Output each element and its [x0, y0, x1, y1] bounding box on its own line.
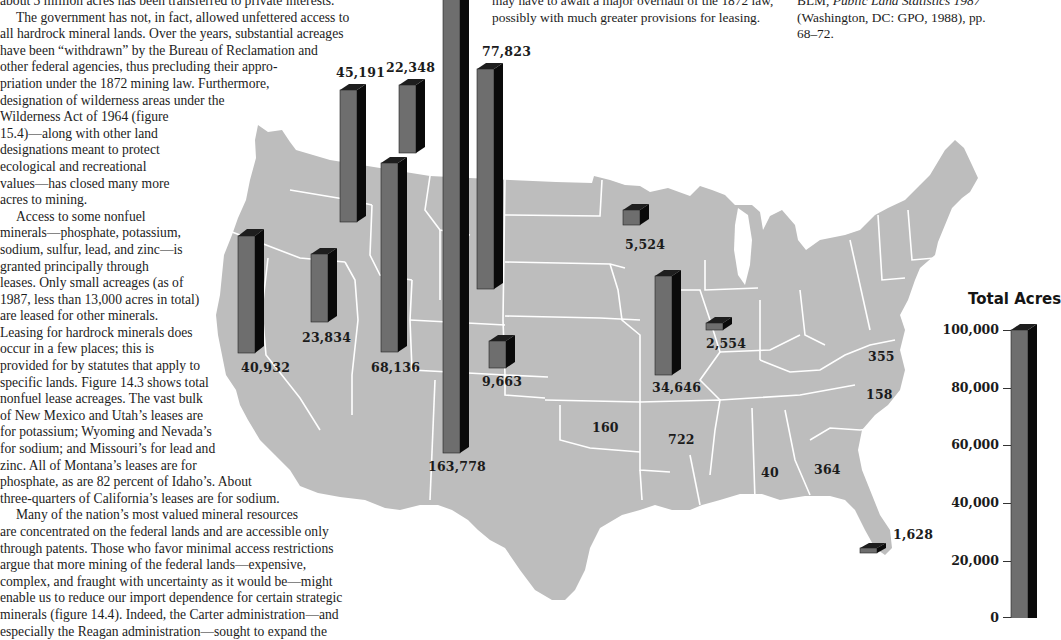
bar-montana [399, 79, 425, 153]
label-minnesota: 5,524 [625, 237, 665, 252]
tick-mark [1003, 445, 1011, 446]
label-montana: 22,348 [386, 60, 435, 75]
bar-colorado [489, 335, 515, 368]
bar-wyoming [477, 63, 503, 289]
label-nevada: 23,834 [302, 330, 351, 345]
tick-mark [1003, 561, 1011, 562]
bar-new-mexico [443, 0, 469, 453]
legend-scale-bar [1011, 324, 1037, 618]
bar-utah [381, 157, 407, 352]
legend-tick-40000: 40,000 [919, 495, 999, 510]
label-new-mexico: 163,778 [428, 459, 486, 474]
label-georgia: 364 [814, 462, 841, 477]
label-california: 40,932 [241, 360, 290, 375]
label-utah: 68,136 [371, 360, 420, 375]
label-arkansas: 722 [668, 432, 695, 447]
legend-tick-80000: 80,000 [919, 380, 999, 395]
legend-title: Total Acres [968, 290, 1061, 308]
bar-california [238, 229, 264, 353]
label-missouri: 34,646 [652, 380, 701, 395]
bar-nevada [311, 248, 337, 322]
tick-mark [1003, 388, 1011, 389]
legend-tick-0: 0 [919, 610, 999, 625]
legend-tick-60000: 60,000 [919, 437, 999, 452]
label-florida: 1,628 [893, 527, 933, 542]
tick-mark [1003, 503, 1011, 504]
label-north-carolina: 158 [866, 387, 893, 402]
label-oklahoma: 160 [592, 420, 619, 435]
label-idaho: 45,191 [336, 65, 385, 80]
bar-idaho [340, 84, 366, 222]
label-virginia: 355 [868, 349, 895, 364]
legend-tick-20000: 20,000 [919, 553, 999, 568]
label-wyoming: 77,823 [482, 44, 531, 59]
bar-missouri [655, 270, 681, 375]
legend-tick-100000: 100,000 [919, 322, 999, 337]
text-line: especially the Reagan administration—sou… [0, 624, 349, 640]
label-colorado: 9,663 [482, 374, 522, 389]
tick-mark [1003, 330, 1011, 331]
label-alabama: 40 [761, 465, 779, 480]
tick-mark [1003, 617, 1011, 618]
label-illinois: 2,554 [706, 336, 746, 351]
